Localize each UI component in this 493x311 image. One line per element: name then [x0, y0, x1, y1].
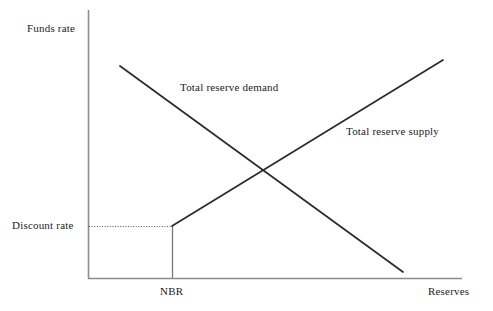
- y-axis-label: Funds rate: [27, 22, 75, 35]
- discount-rate-label: Discount rate: [12, 219, 74, 232]
- plot-area: [0, 0, 493, 311]
- supply-curve-label: Total reserve supply: [346, 125, 439, 138]
- x-axis-label: Reserves: [428, 285, 469, 298]
- demand-curve: [120, 66, 403, 272]
- demand-curve-label: Total reserve demand: [180, 81, 279, 94]
- nbr-label: NBR: [160, 285, 183, 298]
- reserve-market-figure: Funds rate Discount rate NBR Reserves To…: [0, 0, 493, 311]
